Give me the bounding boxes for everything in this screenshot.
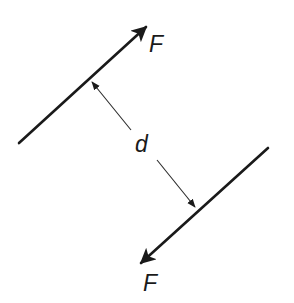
- distance-arrow-lower-icon: [157, 160, 195, 207]
- force-label-upper: F: [149, 31, 165, 57]
- force-couple-diagram: F F d: [0, 0, 294, 303]
- force-label-lower: F: [143, 270, 159, 296]
- distance-arrow-upper-icon: [92, 82, 131, 130]
- force-arrow-down-left-icon: [141, 148, 268, 263]
- distance-dimension: d: [92, 82, 195, 207]
- force-vector-upper: F: [19, 27, 165, 143]
- force-vector-lower: F: [141, 148, 268, 296]
- distance-label: d: [135, 131, 149, 157]
